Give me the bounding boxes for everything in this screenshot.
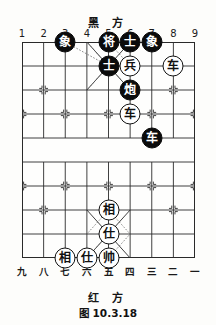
red-advisor-c5-r8-label: 仕 — [103, 228, 115, 240]
top-file-label-1: 1 — [14, 27, 30, 40]
red-pawn-c6-r1[interactable]: 兵 — [120, 56, 141, 77]
red-advisor-c4-r9[interactable]: 仕 — [76, 248, 97, 269]
red-minister-c3-r9[interactable]: 相 — [55, 248, 76, 269]
black-elephant-c7-label: 象 — [146, 36, 158, 48]
black-advisor-c5-r1[interactable]: 士 — [98, 56, 119, 77]
red-pawn-c6-r1-label: 兵 — [124, 60, 136, 72]
red-chariot-c6-r3[interactable]: 车 — [120, 104, 141, 125]
red-marshal-c5-r9[interactable]: 帅 — [98, 248, 119, 269]
black-cannon-c6-r2-label: 炮 — [124, 84, 136, 96]
xiangqi-figure: 黑 方 123456789 象将士象士兵车炮车车相仕相仕帅 九八七六五四三二一 … — [0, 0, 216, 325]
black-chariot-c7-r4-label: 车 — [146, 132, 158, 144]
red-minister-c3-r9-label: 相 — [59, 252, 71, 264]
black-elephant-c3-label: 象 — [59, 36, 71, 48]
black-advisor-c5-r1-label: 士 — [103, 60, 115, 72]
red-chariot-c6-r3-label: 车 — [124, 108, 136, 120]
bottom-file-label-9: 一 — [187, 265, 203, 278]
black-chariot-c7-r4[interactable]: 车 — [141, 128, 162, 149]
black-elephant-c7[interactable]: 象 — [141, 32, 162, 53]
bottom-file-label-1: 九 — [14, 265, 30, 278]
bottom-file-label-7: 三 — [144, 265, 160, 278]
black-advisor-c6-label: 士 — [124, 36, 136, 48]
red-marshal-c5-r9-label: 帅 — [103, 252, 115, 264]
xiangqi-board[interactable]: 象将士象士兵车炮车车相仕相仕帅 — [22, 42, 195, 258]
black-general-c5[interactable]: 将 — [98, 32, 119, 53]
red-advisor-c4-r9-label: 仕 — [81, 252, 93, 264]
top-file-label-2: 2 — [36, 27, 52, 40]
top-file-label-9: 9 — [187, 27, 203, 40]
black-elephant-c3[interactable]: 象 — [55, 32, 76, 53]
figure-caption: 图 10.3.18 — [0, 305, 216, 320]
red-advisor-c5-r8[interactable]: 仕 — [98, 224, 119, 245]
top-file-label-8: 8 — [165, 27, 181, 40]
red-chariot-c8-r1-label: 车 — [167, 60, 179, 72]
red-minister-c5-r7-label: 相 — [103, 204, 115, 216]
top-file-label-4: 4 — [79, 27, 95, 40]
bottom-file-label-8: 二 — [165, 265, 181, 278]
black-cannon-c6-r2[interactable]: 炮 — [120, 80, 141, 101]
red-side-label: 红 方 — [0, 289, 216, 305]
red-minister-c5-r7[interactable]: 相 — [98, 200, 119, 221]
bottom-file-label-2: 八 — [36, 265, 52, 278]
red-chariot-c8-r1[interactable]: 车 — [163, 56, 184, 77]
black-advisor-c6[interactable]: 士 — [120, 32, 141, 53]
bottom-file-label-6: 四 — [122, 265, 138, 278]
black-general-c5-label: 将 — [103, 36, 115, 48]
